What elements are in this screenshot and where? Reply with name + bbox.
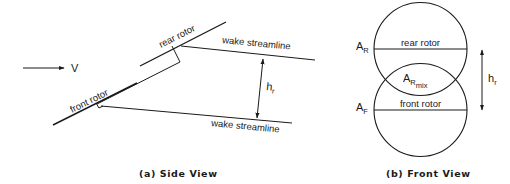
- rear-area-label: AR: [356, 40, 369, 55]
- side-view-panel: V front rotor rear rotor wake streamline…: [23, 22, 315, 179]
- side-view-caption: (a) Side View: [139, 168, 218, 179]
- front-view-front-rotor-label: front rotor: [400, 98, 441, 109]
- mix-area-label: ARmix: [403, 72, 428, 90]
- front-view-panel: rear rotor front rotor AR AF ARmix hr (b…: [356, 3, 497, 180]
- wake-separation-label: hr: [265, 80, 276, 96]
- lower-wake-streamline-label: wake streamline: [210, 117, 280, 135]
- front-area-label: AF: [356, 101, 368, 116]
- wake-separation-arrow-icon: [257, 59, 263, 118]
- lower-wake-streamline: [101, 106, 292, 123]
- front-rotor-disk: [53, 83, 137, 125]
- rear-rotor-label: rear rotor: [157, 22, 197, 50]
- velocity-label: V: [71, 62, 79, 74]
- upper-wake-streamline-label: wake streamline: [221, 34, 291, 52]
- front-view-rear-rotor-label: rear rotor: [401, 37, 440, 48]
- upper-wake-streamline: [181, 46, 315, 60]
- front-view-caption: (b) Front View: [386, 168, 471, 179]
- rotor-separation-label: hr: [488, 72, 497, 87]
- tandem-rotor-diagram: V front rotor rear rotor wake streamline…: [0, 0, 510, 184]
- slipstream-tube-outline: [97, 46, 180, 104]
